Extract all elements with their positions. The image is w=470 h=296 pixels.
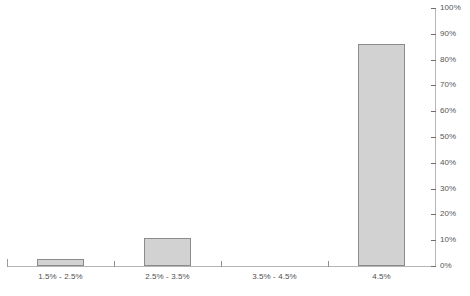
y-axis-label: 60% xyxy=(440,107,456,115)
y-axis-label: 90% xyxy=(440,30,456,38)
x-axis-label: 4.5% xyxy=(328,272,435,281)
x-axis-origin-stub xyxy=(7,259,8,267)
y-axis-tick xyxy=(431,163,436,164)
x-axis-label: 2.5% - 3.5% xyxy=(114,272,221,281)
bar xyxy=(144,238,191,266)
y-axis-tick xyxy=(431,214,436,215)
y-axis-label: 40% xyxy=(440,159,456,167)
x-axis-tick xyxy=(114,261,115,267)
y-axis-tick xyxy=(431,111,436,112)
y-axis-label: 20% xyxy=(440,210,456,218)
y-axis-label: 100% xyxy=(440,4,461,12)
y-axis-tick xyxy=(431,60,436,61)
y-axis-label: 50% xyxy=(440,133,456,141)
y-axis-tick xyxy=(431,85,436,86)
y-axis-tick xyxy=(431,8,436,9)
y-axis-label: 0% xyxy=(440,262,452,270)
bar xyxy=(37,259,84,266)
y-axis-tick xyxy=(431,189,436,190)
y-axis-label: 10% xyxy=(440,236,456,244)
y-axis-tick xyxy=(431,34,436,35)
y-axis-tick xyxy=(431,266,436,267)
x-axis-tick xyxy=(328,261,329,267)
y-axis-label: 80% xyxy=(440,56,456,64)
y-axis-tick xyxy=(431,240,436,241)
y-axis-label: 30% xyxy=(440,185,456,193)
bar xyxy=(358,44,405,266)
y-axis-tick xyxy=(431,137,436,138)
y-axis-label: 70% xyxy=(440,81,456,89)
x-axis-label: 1.5% - 2.5% xyxy=(7,272,114,281)
x-axis-label: 3.5% - 4.5% xyxy=(221,272,328,281)
x-axis-tick xyxy=(221,261,222,267)
bar-chart: 100%90%80%70%60%50%40%30%20%10%0% 1.5% -… xyxy=(0,0,470,296)
